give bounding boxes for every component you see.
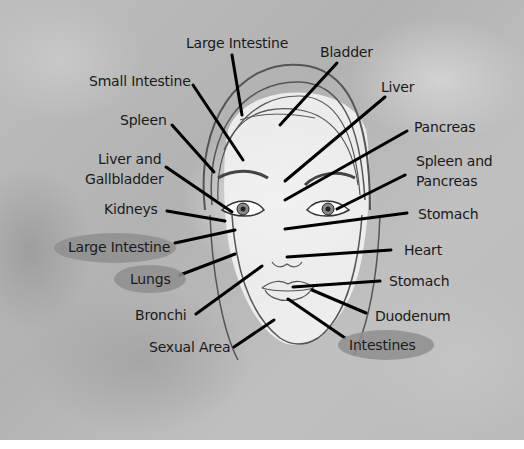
label-kidneys: Kidneys bbox=[104, 201, 158, 217]
label-liver: Liver bbox=[381, 79, 414, 95]
label-lungs: Lungs bbox=[130, 271, 170, 287]
face-illustration bbox=[0, 0, 524, 449]
label-bronchi: Bronchi bbox=[135, 307, 187, 323]
label-large-intestine-top: Large Intestine bbox=[186, 35, 288, 51]
label-small-intestine: Small Intestine bbox=[89, 73, 191, 89]
label-spleen-pancreas-1: Spleen and bbox=[416, 153, 493, 169]
label-heart: Heart bbox=[404, 242, 442, 258]
face-map-diagram: Large Intestine Bladder Small Intestine … bbox=[0, 0, 524, 449]
label-spleen-pancreas-2: Pancreas bbox=[416, 173, 477, 189]
label-liver-gallbladder-1: Liver and bbox=[98, 151, 161, 167]
label-spleen: Spleen bbox=[120, 112, 167, 128]
label-stomach-upper: Stomach bbox=[418, 206, 478, 222]
label-sexual-area: Sexual Area bbox=[149, 339, 230, 355]
label-duodenum: Duodenum bbox=[375, 308, 451, 324]
label-pancreas: Pancreas bbox=[414, 119, 475, 135]
label-bladder: Bladder bbox=[320, 44, 373, 60]
label-intestines: Intestines bbox=[349, 337, 416, 353]
label-liver-gallbladder-2: Gallbladder bbox=[85, 171, 164, 187]
label-large-intestine-cheek: Large Intestine bbox=[68, 239, 170, 255]
label-stomach-lip: Stomach bbox=[389, 273, 449, 289]
